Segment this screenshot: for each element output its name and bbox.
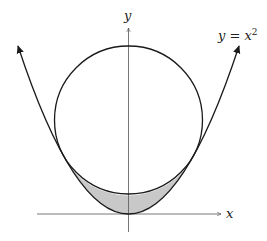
parabola-circle-diagram: y x y = x2 <box>0 0 267 241</box>
curve-label-exponent: 2 <box>252 27 258 37</box>
curve-label: y = x2 <box>217 27 258 43</box>
x-axis-label: x <box>226 206 234 221</box>
curve-label-base: y = x <box>217 28 253 43</box>
y-axis-label: y <box>123 8 132 23</box>
